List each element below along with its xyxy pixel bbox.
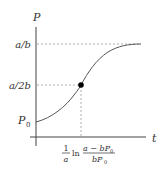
- logistic-diagram: P t a/b a/2b P 0 1 a ln a − bP 0 bP 0: [0, 0, 163, 171]
- y-tick-a-over-b: a/b: [15, 39, 31, 50]
- x-axis-label: t: [152, 132, 157, 145]
- y-tick-a-over-2b: a/2b: [9, 80, 31, 91]
- y-axis-label: P: [32, 11, 41, 24]
- y-tick-p0-sub: 0: [26, 121, 30, 129]
- y-tick-p0: P: [17, 114, 26, 127]
- fraction-numerator: a − bP: [83, 144, 111, 153]
- logistic-curve: [36, 44, 141, 122]
- fraction-denominator: bP: [92, 155, 103, 164]
- coef-numerator: 1: [63, 144, 68, 153]
- inflection-point: [78, 82, 84, 88]
- ln-text: ln: [72, 149, 80, 158]
- coef-denominator: a: [64, 155, 69, 164]
- fraction-denominator-sub: 0: [104, 159, 107, 165]
- x-tick-inflection-time: 1 a ln a − bP 0 bP 0: [62, 144, 115, 165]
